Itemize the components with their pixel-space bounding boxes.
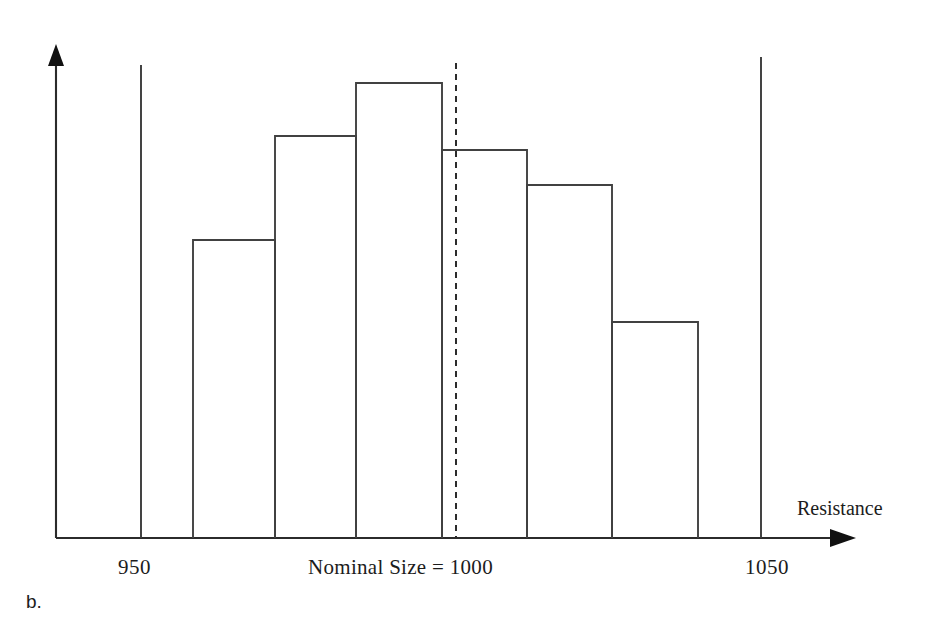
tick-label-upper-spec: 1050 (745, 557, 789, 578)
tick-label-nominal-size: Nominal Size = 1000 (308, 557, 493, 578)
arrow-up-icon (48, 44, 64, 66)
bar-5 (527, 185, 612, 538)
x-axis-label: Resistance (797, 498, 883, 518)
tick-label-lower-spec: 950 (118, 557, 151, 578)
histogram-bars (193, 83, 698, 538)
y-axis-group (48, 44, 64, 538)
bar-6 (612, 322, 698, 538)
bar-2 (275, 136, 356, 538)
bar-3 (356, 83, 442, 538)
bar-4 (442, 150, 527, 538)
histogram-canvas (0, 0, 933, 633)
histogram-figure: Resistance 950 Nominal Size = 1000 1050 … (0, 0, 933, 633)
arrow-right-icon (830, 529, 856, 547)
bar-1 (193, 240, 275, 538)
figure-part-label: b. (26, 592, 42, 611)
